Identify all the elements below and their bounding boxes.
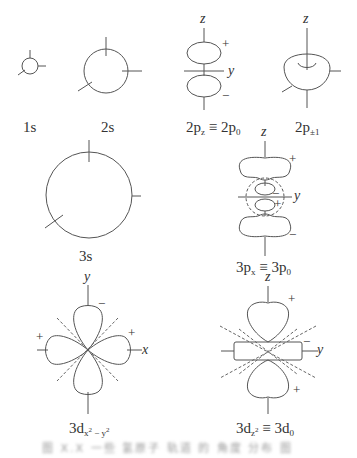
orbital-diagram [0,0,357,458]
label-2s: 2s [101,120,114,135]
sign-minus-3dx2y2-top: − [98,297,105,310]
orbital-3s-shape [45,140,141,238]
axis-label-z-3px: z [261,125,266,139]
sign-minus-3px-outer: − [289,228,296,241]
label-3dx2y2: 3dx2 − y2 [69,421,110,438]
orbital-2pz-shape [184,28,224,110]
axis-label-y-3dx2y2: y [84,270,90,284]
orbital-2s-shape [78,37,142,93]
axis-label-x-3dx2y2: x [142,343,148,357]
sign-plus-3px-outer: + [289,152,296,165]
label-3dz2: 3dz2 ≡ 3d0 [236,421,294,438]
sign-plus-2pz: + [222,37,229,50]
label-3s: 3s [79,249,92,264]
figure-caption: 图 X.X 一些 氢原子 轨道 的 角度 分布 图 [42,439,307,451]
sign-plus-3dx2y2-right: + [128,326,135,339]
label-2pz: 2pz ≡ 2p0 [186,120,240,137]
sign-plus-3dz2-top: + [288,292,295,305]
orbital-1s-shape [18,50,46,75]
orbital-3dz2-shape [220,286,318,414]
label-3px: 3px ≡ 3p0 [236,260,291,277]
sign-plus-3dz2-bottom: + [293,383,300,396]
orbital-3px-shape [238,141,292,256]
sign-minus-3dz2: − [303,335,310,348]
axis-label-y-3px: y [294,189,300,203]
label-2p-pm1: 2p±1 [295,120,319,137]
axis-label-y-3dz2: y [317,343,323,357]
axis-label-z-2pz: z [200,12,205,26]
axis-label-z-2ppm1: z [303,12,308,26]
axis-label-y-2pz: y [228,64,234,78]
sign-plus-3px-inner: + [274,197,281,210]
orbital-2p-pm1-shape [282,28,341,108]
orbital-3dx2y2-shape [37,285,142,414]
sign-plus-3dx2y2-left: + [36,330,43,343]
sign-minus-2pz: − [222,89,229,102]
label-1s: 1s [23,120,36,135]
